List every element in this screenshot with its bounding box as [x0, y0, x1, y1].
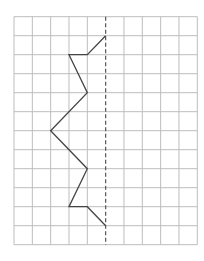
symmetry-grid-diagram [0, 0, 204, 261]
